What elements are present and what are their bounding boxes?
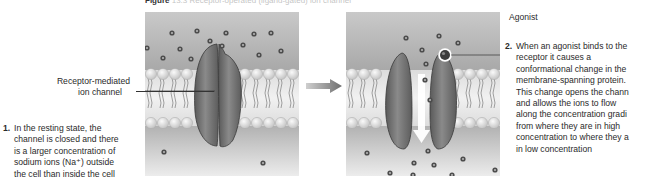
step-2-caption: 2. When an agonist binds to the receptor… xyxy=(516,41,647,155)
ion-channel-leader-line xyxy=(136,91,214,92)
resting-state-panel xyxy=(145,12,299,176)
transition-arrow-icon xyxy=(306,79,342,93)
agonist-label: Agonist xyxy=(509,12,538,23)
open-channel-illustration xyxy=(346,12,500,176)
figure-title: Figure 13.3 Receptor-operated (ligand-ga… xyxy=(145,0,351,5)
step-1-caption: 1. In the resting state, the channel is … xyxy=(14,123,144,180)
closed-channel-illustration xyxy=(145,12,299,176)
activated-state-panel xyxy=(346,12,500,176)
agonist-molecule xyxy=(438,48,452,62)
ion-channel-label: Receptor-mediated ion channel xyxy=(50,76,130,98)
